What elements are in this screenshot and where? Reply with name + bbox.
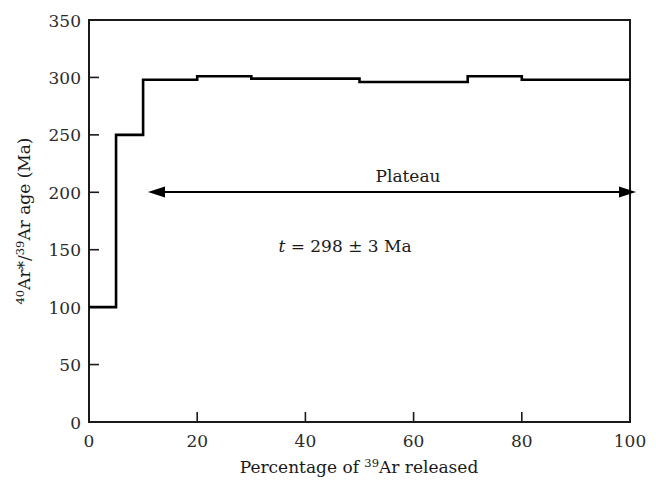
y-axis-title-mid: Ar*/ [14, 255, 34, 291]
x-tick-label-100: 100 [614, 431, 646, 451]
y-axis-title-post: Ar age (Ma) [14, 137, 34, 241]
x-axis-ticks [89, 412, 630, 422]
y-axis-title: 40Ar*/39Ar age (Ma) [13, 137, 34, 304]
x-tick-label-0: 0 [84, 431, 95, 451]
x-tick-label-60: 60 [403, 431, 425, 451]
y-tick-label-300: 300 [49, 68, 81, 88]
y-tick-label-0: 0 [70, 413, 81, 433]
y-tick-labels: 0 50 100 150 200 250 300 350 [49, 11, 81, 433]
y-tick-label-150: 150 [49, 240, 81, 260]
chart-canvas: 0 50 100 150 200 250 300 350 0 20 40 60 … [0, 0, 656, 481]
y-tick-label-350: 350 [49, 11, 81, 31]
x-axis-title-pre: Percentage of [240, 457, 365, 477]
x-tick-labels: 0 20 40 60 80 100 [84, 431, 647, 451]
plateau-label: Plateau [376, 166, 441, 186]
age-annotation-value: = 298 ± 3 Ma [285, 236, 411, 256]
y-tick-label-50: 50 [59, 355, 81, 375]
y-tick-label-250: 250 [49, 125, 81, 145]
x-axis-title-post: Ar released [378, 457, 478, 477]
x-tick-label-40: 40 [295, 431, 317, 451]
plateau-arrow [148, 187, 636, 198]
ar-ar-age-spectrum-figure: 0 50 100 150 200 250 300 350 0 20 40 60 … [0, 0, 656, 481]
y-tick-label-200: 200 [49, 183, 81, 203]
age-annotation: t = 298 ± 3 Ma [278, 236, 411, 256]
x-axis-title: Percentage of 39Ar released [240, 456, 479, 477]
x-axis-title-superscript: 39 [364, 456, 379, 470]
y-tick-label-100: 100 [49, 298, 81, 318]
plateau-arrow-head-left [148, 187, 165, 198]
x-tick-label-80: 80 [511, 431, 533, 451]
y-axis-ticks [89, 20, 99, 422]
y-axis-title-superscript-40: 40 [13, 290, 27, 305]
x-tick-label-20: 20 [186, 431, 208, 451]
y-axis-title-superscript-39: 39 [13, 241, 27, 256]
plateau-arrow-head-right [619, 187, 636, 198]
